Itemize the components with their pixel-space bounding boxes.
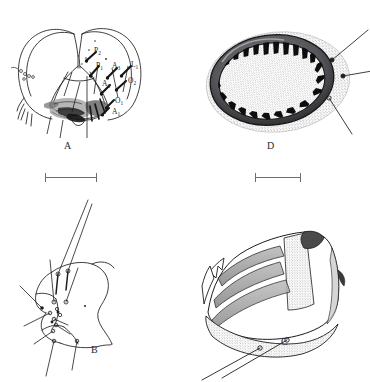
panel-letter-b: B [91, 344, 98, 355]
panel-c-drawing [188, 208, 370, 382]
panel-a-drawing [2, 16, 182, 148]
scale-bar-rule [255, 177, 301, 178]
label-p2: P2 [94, 46, 101, 55]
panel-letter-a: A [64, 140, 71, 151]
panel-d [200, 18, 370, 143]
scale-bar-tick-left [255, 173, 256, 182]
scale-bar-upper-left [45, 173, 97, 182]
panel-b [0, 198, 180, 382]
label-a3: A3 [112, 61, 120, 70]
label-a1: A1 [112, 107, 120, 116]
panel-letter-c: C [281, 336, 288, 347]
label-l1: L1 [131, 60, 138, 69]
label-p1: P1 [96, 61, 103, 70]
figure-plate: P2 P1 A3 L1 A2 O2 O1 A1 A [0, 0, 370, 382]
panel-c [188, 208, 370, 382]
panel-letter-d: D [267, 140, 274, 151]
panel-d-drawing [200, 18, 370, 143]
scale-bar-tick-right [96, 173, 97, 182]
panel-a: P2 P1 A3 L1 A2 O2 O1 A1 [2, 16, 182, 148]
scale-bar-rule [45, 177, 97, 178]
scale-bar-tick-left [45, 173, 46, 182]
label-o2: O2 [128, 76, 136, 85]
scale-bar-upper-right [255, 173, 301, 182]
label-o1: O1 [115, 96, 123, 105]
panel-b-drawing [0, 198, 180, 382]
label-a2: A2 [102, 79, 110, 88]
cropped-header-text [4, 0, 304, 7]
scale-bar-tick-right [300, 173, 301, 182]
